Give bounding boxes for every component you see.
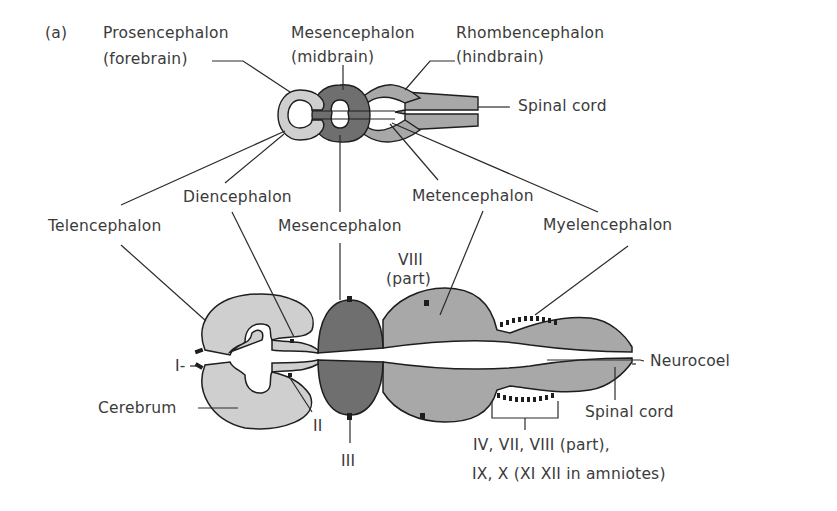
top-brain-view: [278, 85, 478, 142]
midbrain-upper: [318, 300, 383, 353]
forebrain-label: (forebrain): [103, 50, 188, 69]
nerve-viii-label: VIII: [398, 251, 423, 270]
prosencephalon-label: Prosencephalon: [103, 24, 229, 43]
hindbrain-label: (hindbrain): [456, 48, 544, 67]
rhombencephalon-label: Rhombencephalon: [456, 24, 604, 43]
neurocoel-label: Neurocoel: [650, 352, 730, 371]
nerve-iii-label: III: [341, 452, 355, 471]
cranial-nerves-label-line1: IV, VII, VIII (part),: [473, 436, 610, 455]
cerebrum-lower: [202, 362, 312, 429]
midbrain-label: (midbrain): [291, 48, 374, 67]
cerebrum-label: Cerebrum: [98, 399, 177, 418]
nerve-viii-part-label: (part): [386, 270, 431, 289]
bottom-brain-view: [202, 288, 632, 429]
nerve-i-label: I-: [175, 357, 186, 376]
diencephalon-label: Diencephalon: [183, 188, 292, 207]
midbrain-lower: [318, 360, 383, 415]
cranial-nerves-label-line2: IX, X (XI XII in amniotes): [472, 465, 666, 484]
nerve-ii-label: II: [313, 417, 323, 436]
metencephalon-label: Metencephalon: [412, 187, 534, 206]
top-midbrain: [312, 85, 370, 142]
mesencephalon-label: Mesencephalon: [278, 217, 402, 236]
telencephalon-label: Telencephalon: [48, 217, 161, 236]
bottom-spinal-cord-label: Spinal cord: [585, 403, 674, 422]
top-spinal-cord-label: Spinal cord: [518, 97, 607, 116]
mesencephalon-top-label: Mesencephalon: [291, 24, 415, 43]
myelencephalon-label: Myelencephalon: [543, 216, 672, 235]
myelencephalon-rootlets-bottom: [497, 393, 554, 402]
panel-label: (a): [45, 24, 67, 43]
